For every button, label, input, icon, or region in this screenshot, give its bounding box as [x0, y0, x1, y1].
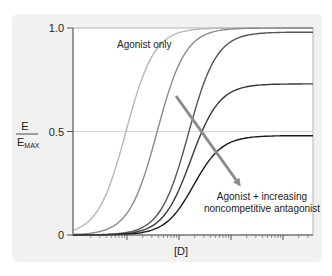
y-axis-numerator: E	[21, 120, 28, 132]
x-axis-label: [D]	[174, 245, 188, 257]
y-tick-label-05: 0.5	[49, 126, 64, 138]
x-ticks	[91, 235, 308, 240]
y-tick-label-1: 1.0	[49, 22, 64, 34]
y-tick-label-0: 0	[58, 229, 64, 241]
y-axis-denominator: EMAX	[17, 136, 40, 149]
dose-response-chart: 1.0 0.5 0 E EMAX [D] Agonist only Agonis…	[0, 0, 332, 276]
agonist-only-label: Agonist only	[117, 39, 171, 50]
antagonist-label-line2: noncompetitive antagonist	[204, 203, 320, 214]
antagonist-label-line1: Agonist + increasing	[217, 191, 307, 202]
